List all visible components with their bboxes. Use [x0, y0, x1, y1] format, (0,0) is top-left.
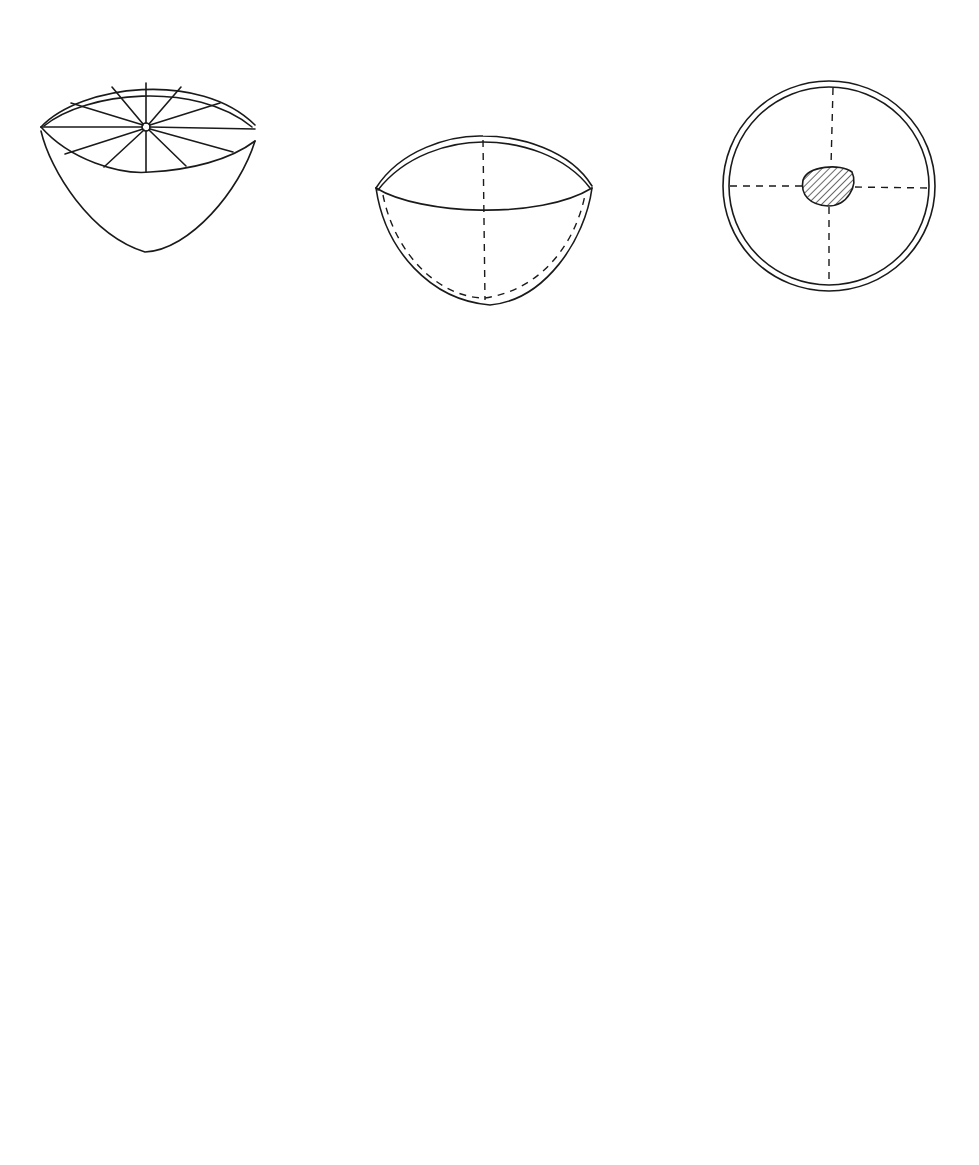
hollowed-shell-drawing [376, 136, 592, 305]
top-view-dark-center-drawing [723, 81, 935, 291]
halved-fruit-drawing [41, 83, 255, 252]
fruit-carving-diagram [0, 0, 979, 1165]
